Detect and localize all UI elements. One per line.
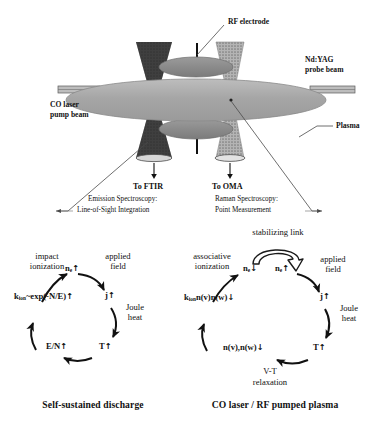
right-node-ne-down: ne↓ (243, 264, 257, 274)
left-node-kion: kion~exp(-N/E)↑ (14, 292, 73, 302)
right-edge-associative-ionization-line2: ionization (181, 262, 243, 271)
left-node-j: j↑ (105, 291, 115, 300)
right-node-t: T↑ (313, 343, 326, 352)
left-node-en: E/N↑ (46, 342, 67, 351)
left-node-ne: ne↑ (65, 264, 79, 274)
left-edge-joule-heat-line2: heat (118, 313, 152, 322)
ndyag-label-line1: Nd:YAG (305, 56, 333, 64)
right-edge-vt-relaxation-line2: relaxation (246, 378, 294, 387)
emission-spectroscopy-title: Emission Spectroscopy: (88, 196, 157, 204)
left-node-kion-trend: ↑ (66, 291, 73, 301)
plasma-region (66, 79, 326, 121)
right-node-nvnw-trend: ↓ (257, 342, 264, 352)
right-node-ne-down-trend: ↓ (250, 263, 257, 273)
right-node-t-trend: ↑ (319, 342, 326, 352)
right-node-nvnw: n(v),n(w)↓ (223, 343, 264, 352)
right-edge-joule-heat-line1: Joule (332, 304, 366, 313)
detector-arrows (151, 163, 233, 179)
right-node-ne-up-trend: ↑ (282, 263, 289, 273)
right-edge-joule-heat-line2: heat (332, 314, 366, 323)
right-node-kion-subscript: ion (189, 296, 196, 302)
right-node-j: j↑ (320, 292, 330, 301)
raman-spectroscopy-subtitle: Point Measurement (215, 207, 271, 215)
right-arrow-applied-field (297, 274, 319, 292)
right-cycle-arrows (202, 274, 329, 364)
left-node-ne-trend: ↑ (72, 263, 79, 273)
right-node-kion-expression: n(v)n(w) (196, 292, 228, 302)
right-arrow-vt-relaxation (277, 360, 308, 364)
left-cycle-caption: Self-sustained discharge (8, 400, 178, 410)
co-laser-label-line2: pump beam (50, 111, 89, 119)
left-node-t: T↑ (99, 342, 112, 351)
right-node-kion: kionn(v)n(w)↓ (184, 293, 234, 303)
to-oma-label: To OMA (212, 183, 243, 192)
right-edge-applied-field-line1: applied (311, 255, 355, 264)
right-edge-stabilizing-link: stabilizing link (232, 228, 324, 237)
left-arrow-bottom (64, 358, 92, 361)
right-edge-associative-ionization-line1: associative (181, 252, 243, 261)
left-arrow-applied-field (78, 274, 104, 290)
right-node-nvnw-symbol: n(v),n(w) (223, 342, 257, 352)
plasma-label: Plasma (336, 122, 360, 130)
right-node-j-trend: ↑ (323, 291, 330, 301)
left-node-kion-subscript: ion (19, 295, 26, 301)
left-node-en-trend: ↑ (60, 341, 67, 351)
left-edge-applied-field-line2: field (96, 262, 140, 271)
right-edge-applied-field-line2: field (311, 265, 355, 274)
rf-electrode-lower (159, 119, 233, 139)
left-edge-impact-ionization-line1: impact (18, 252, 76, 261)
emission-spectroscopy-subtitle: Line-of-Sight Integration (77, 207, 149, 215)
left-edge-applied-field-line1: applied (96, 252, 140, 261)
left-node-t-trend: ↑ (105, 341, 112, 351)
left-node-j-trend: ↑ (108, 290, 115, 300)
left-edge-joule-heat-line1: Joule (118, 303, 152, 312)
figure-root: RF electrode Nd:YAG probe beam CO laser … (0, 0, 368, 424)
right-cycle-caption: CO laser / RF pumped plasma (185, 400, 365, 410)
right-arrow-left (202, 324, 207, 351)
right-arrow-joule-heat (325, 309, 329, 338)
left-node-en-symbol: E/N (46, 341, 60, 351)
rf-electrode-upper (159, 57, 233, 77)
left-arrow-left (31, 323, 36, 350)
rf-electrode-label: RF electrode (228, 18, 269, 26)
ndyag-label-line2: probe beam (305, 66, 343, 74)
right-node-ne-up: ne↑ (275, 264, 289, 274)
co-laser-label-line1: CO laser (50, 101, 79, 109)
right-edge-vt-relaxation-line1: V-T (252, 367, 288, 376)
left-arrow-joule-heat (111, 308, 116, 337)
left-node-kion-expression: ~exp(-N/E) (26, 291, 66, 301)
raman-spectroscopy-title: Raman Spectroscopy: (215, 196, 278, 204)
right-node-kion-trend: ↓ (227, 292, 234, 302)
to-ftir-label: To FTIR (133, 183, 163, 192)
